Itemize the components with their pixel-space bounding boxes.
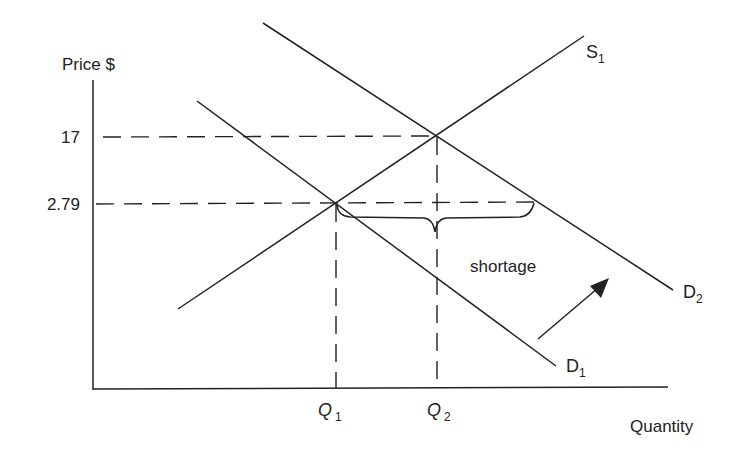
y-tick-17: 17: [61, 128, 80, 147]
price-17-guide: [103, 136, 435, 137]
d1-label: D1: [566, 356, 586, 380]
y-tick-2-79: 2.79: [47, 195, 80, 214]
s1-label: S1: [586, 42, 605, 66]
arrow-head-icon: [590, 278, 609, 298]
x-axis: [93, 387, 668, 389]
supply-demand-diagram: Price $ Quantity 17 2.79 S1 D1 D2 shorta…: [0, 0, 750, 465]
d2-label: D2: [683, 282, 703, 306]
shortage-label: shortage: [470, 257, 536, 276]
q1-label: Q1: [318, 400, 342, 424]
y-axis-label: Price $: [62, 55, 115, 74]
shift-arrow-line: [538, 288, 598, 339]
demand-curve-d1: [197, 101, 556, 366]
x-axis-label: Quantity: [630, 417, 694, 436]
q2-label: Q2: [427, 400, 451, 424]
demand-curve-d2: [263, 23, 673, 290]
shortage-brace: [337, 203, 534, 232]
price-2-79-guide: [96, 202, 534, 204]
